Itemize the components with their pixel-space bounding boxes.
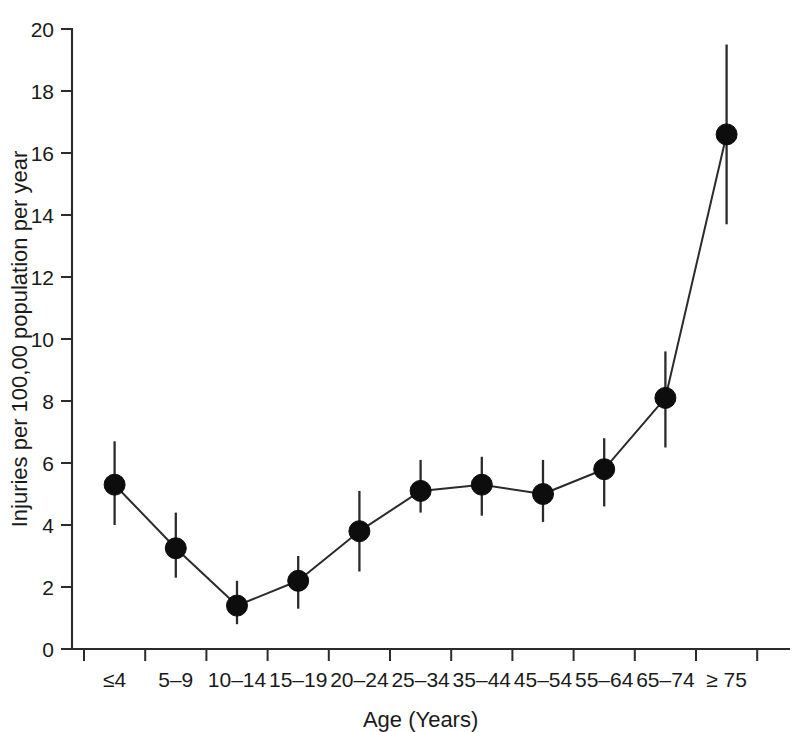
error-bars — [115, 45, 727, 625]
x-tick-label: ≥ 75 — [706, 668, 747, 691]
data-point-marker — [655, 387, 676, 408]
chart-figure: 02468101214161820 ≤45–910–1415–1920–2425… — [0, 0, 799, 732]
y-tick-label: 12 — [31, 266, 54, 289]
data-point-markers — [104, 124, 737, 616]
y-tick-label: 14 — [31, 204, 55, 227]
x-tick-label: 20–24 — [330, 668, 389, 691]
data-point-marker — [349, 521, 370, 542]
y-tick-label: 10 — [31, 328, 54, 351]
x-tick-label: 5–9 — [158, 668, 193, 691]
data-point-marker — [594, 459, 615, 480]
x-tick-label: 15–19 — [269, 668, 327, 691]
data-point-marker — [410, 480, 431, 501]
y-axis-title: Injuries per 100,00 population per year — [7, 151, 32, 528]
data-point-marker — [471, 474, 492, 495]
y-tick-label: 16 — [31, 142, 54, 165]
data-series-line — [115, 134, 727, 605]
y-tick-label: 4 — [42, 514, 54, 537]
y-tick-label: 8 — [42, 390, 54, 413]
x-axis-ticks: ≤45–910–1415–1920–2425–3435–4445–5455–64… — [84, 649, 757, 691]
x-tick-label: 10–14 — [208, 668, 267, 691]
y-tick-label: 0 — [42, 638, 54, 661]
data-point-marker — [288, 570, 309, 591]
y-tick-label: 18 — [31, 80, 54, 103]
y-tick-label: 2 — [42, 576, 54, 599]
x-tick-label: 25–34 — [391, 668, 450, 691]
y-tick-label: 6 — [42, 452, 54, 475]
data-point-marker — [227, 595, 248, 616]
data-point-marker — [716, 124, 737, 145]
x-tick-label: 55–64 — [575, 668, 634, 691]
x-tick-label: 35–44 — [453, 668, 512, 691]
x-tick-label: 65–74 — [636, 668, 695, 691]
data-point-marker — [533, 484, 554, 505]
x-axis-title: Age (Years) — [363, 707, 478, 732]
x-tick-label: 45–54 — [514, 668, 573, 691]
data-point-marker — [104, 474, 125, 495]
y-tick-label: 20 — [31, 18, 54, 41]
y-axis-ticks: 02468101214161820 — [31, 18, 72, 661]
x-tick-label: ≤4 — [103, 668, 127, 691]
data-point-marker — [165, 538, 186, 559]
line-chart-canvas: 02468101214161820 ≤45–910–1415–1920–2425… — [0, 0, 799, 732]
